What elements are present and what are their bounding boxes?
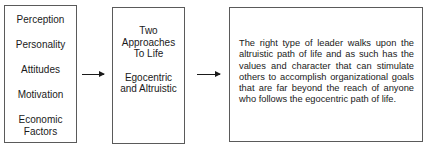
statement-text: The right type of leader walks upon the … [239, 38, 414, 106]
factor-economic-factors: Economic Factors [11, 114, 71, 138]
arrow-right-icon [197, 74, 220, 75]
approaches-subtitle: Egocentric and Altruistic [118, 72, 180, 95]
factor-motivation: Motivation [18, 89, 64, 101]
factor-perception: Perception [17, 14, 65, 26]
factor-attitudes: Attitudes [21, 64, 60, 76]
approaches-box: Two Approaches To Life Egocentric and Al… [112, 7, 185, 144]
factors-box: Perception Personality Attitudes Motivat… [4, 5, 77, 143]
factor-personality: Personality [16, 39, 65, 51]
approaches-title: Two Approaches To Life [118, 25, 180, 60]
arrow-right-icon [82, 74, 104, 75]
statement-box: The right type of leader walks upon the … [229, 7, 423, 142]
